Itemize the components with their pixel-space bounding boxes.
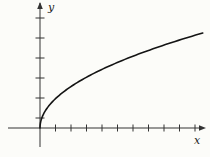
sqrt-curve <box>40 33 203 128</box>
sqrt-curve-figure: y x <box>0 0 210 157</box>
x-axis-label: x <box>194 134 201 147</box>
plot-canvas: y x <box>0 0 210 157</box>
axis-ticks <box>36 18 196 132</box>
axes <box>8 3 202 147</box>
axis-arrowheads <box>37 2 206 131</box>
y-axis-label: y <box>47 1 55 14</box>
